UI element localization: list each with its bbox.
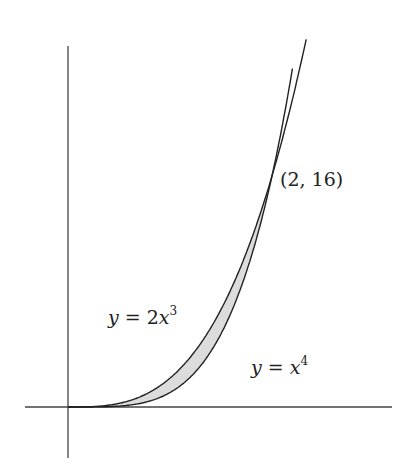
plot-canvas (0, 0, 409, 473)
equals: = (262, 356, 290, 378)
curve-2x-cubed (68, 39, 306, 407)
equals-two: = 2 (119, 306, 159, 328)
curve-label-x-fourth: y = x4 (251, 355, 308, 377)
intersection-point-label: (2, 16) (280, 170, 343, 189)
shaded-area-between-curves (68, 176, 272, 407)
exponent: 4 (300, 354, 308, 368)
var-x: x (159, 306, 170, 328)
point-text: (2, 16) (280, 168, 343, 190)
var-y: y (108, 306, 119, 328)
curve-label-2x-cubed: y = 2x3 (108, 305, 177, 327)
exponent: 3 (170, 304, 178, 318)
var-y: y (251, 356, 262, 378)
var-x: x (290, 356, 301, 378)
